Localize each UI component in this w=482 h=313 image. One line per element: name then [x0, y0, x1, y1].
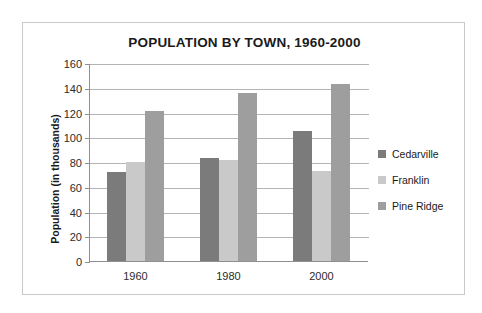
bar-group-2000 [293, 63, 350, 261]
legend-label: Franklin [392, 174, 429, 186]
chart-legend: CedarvilleFranklinPine Ridge [378, 141, 466, 219]
bar-cedarville-2000 [293, 131, 312, 261]
bar-pine-ridge-2000 [331, 84, 350, 261]
bar-cedarville-1960 [107, 172, 126, 261]
legend-swatch-icon [378, 150, 386, 158]
y-axis-tick [85, 138, 90, 139]
y-axis-tick [85, 163, 90, 164]
chart-frame: POPULATION BY TOWN, 1960-2000 Population… [22, 22, 465, 295]
y-axis-tick-label: 20 [42, 231, 82, 243]
bar-franklin-1980 [219, 160, 238, 261]
y-axis-tick [85, 114, 90, 115]
y-axis-tick-label: 160 [42, 58, 82, 70]
bar-franklin-1960 [126, 162, 145, 261]
y-axis-tick [85, 89, 90, 90]
bar-franklin-2000 [312, 171, 331, 261]
y-axis-tick-label: 120 [42, 108, 82, 120]
plot-area: 020406080100120140160 196019802000 [89, 64, 368, 262]
y-axis-tick-label: 0 [42, 256, 82, 268]
y-axis-tick [85, 213, 90, 214]
y-axis-tick [85, 188, 90, 189]
bar-cedarville-1980 [200, 158, 219, 261]
y-axis-tick-label: 100 [42, 132, 82, 144]
legend-item-cedarville[interactable]: Cedarville [378, 141, 466, 167]
y-axis-tick-label: 40 [42, 207, 82, 219]
legend-swatch-icon [378, 202, 386, 210]
y-axis-tick-label: 80 [42, 157, 82, 169]
y-axis-tick-label: 140 [42, 83, 82, 95]
legend-item-pine-ridge[interactable]: Pine Ridge [378, 193, 466, 219]
legend-swatch-icon [378, 176, 386, 184]
chart-screenshot: POPULATION BY TOWN, 1960-2000 Population… [0, 0, 482, 313]
chart-title: POPULATION BY TOWN, 1960-2000 [23, 35, 466, 50]
y-axis-tick-label: 60 [42, 182, 82, 194]
x-axis-tick-label-2000: 2000 [282, 270, 362, 282]
legend-item-franklin[interactable]: Franklin [378, 167, 466, 193]
legend-label: Pine Ridge [392, 200, 443, 212]
bar-pine-ridge-1960 [145, 111, 164, 261]
y-axis-tick [85, 64, 90, 65]
bar-group-1960 [107, 63, 164, 261]
x-axis-tick-label-1960: 1960 [96, 270, 176, 282]
x-axis-tick-label-1980: 1980 [189, 270, 269, 282]
bar-pine-ridge-1980 [238, 93, 257, 261]
bar-group-1980 [200, 63, 257, 261]
legend-label: Cedarville [392, 148, 439, 160]
y-axis-tick [85, 262, 90, 263]
y-axis-tick [85, 237, 90, 238]
